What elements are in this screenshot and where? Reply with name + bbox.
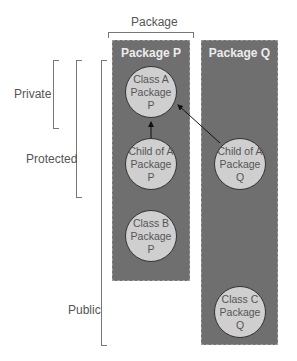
class-package: Package P <box>131 158 172 183</box>
class-name: Class B <box>133 217 169 229</box>
class-package: Package Q <box>220 158 261 183</box>
class-package: Package P <box>131 230 172 255</box>
class-name: Class C <box>222 293 259 305</box>
class-name: Child of A <box>218 145 263 157</box>
private-label: Private <box>14 87 51 101</box>
class-name: Child of A <box>129 145 174 157</box>
class-package: Package Q <box>220 306 261 331</box>
class-c-package-q: Class C Package Q <box>214 286 266 338</box>
child-of-a-package-p: Child of A Package P <box>125 138 177 190</box>
class-a-package-p: Class A Package P <box>125 66 177 118</box>
arrow-childA-Q-to-classA <box>178 105 220 143</box>
private-bracket <box>53 60 59 129</box>
child-of-a-package-q: Child of A Package Q <box>214 138 266 190</box>
protected-bracket <box>76 60 82 198</box>
class-name: Class A <box>133 73 169 85</box>
protected-label: Protected <box>26 152 77 166</box>
public-label: Public <box>68 303 101 317</box>
class-b-package-p: Class B Package P <box>125 210 177 262</box>
public-bracket <box>101 60 107 346</box>
class-package: Package P <box>131 86 172 111</box>
